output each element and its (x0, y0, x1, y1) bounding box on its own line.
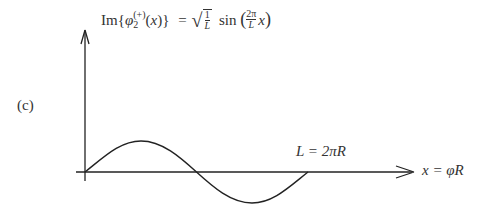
eq-brace-open: { (118, 12, 125, 28)
eq-phi: φ (125, 12, 133, 28)
eq-brace-close: } (162, 12, 169, 28)
eq-x: x (258, 12, 265, 28)
eq-sub: 2 (133, 20, 145, 30)
eq-sqrt-den: L (205, 21, 211, 31)
eq-im: Im (101, 12, 118, 28)
eq-equals: = (178, 12, 186, 28)
eq-sqrt-num: 1 (205, 10, 211, 21)
eq-frac: 2πL (246, 9, 256, 30)
eq-paren-close: ) (265, 9, 271, 29)
equation-label: Im{φ(+)2(x)} =√1L sin (2πLx) (101, 8, 271, 33)
panel-label: (c) (17, 97, 34, 114)
eq-subsup: (+)2 (133, 10, 145, 30)
eq-sin: sin (219, 12, 237, 28)
eq-frac-den: L (246, 20, 256, 30)
eq-sqrt-frac: 1L (203, 9, 213, 31)
period-label: L = 2πR (296, 143, 346, 160)
sqrt-icon: √ (192, 9, 203, 31)
x-axis-label: x = φR (422, 162, 464, 179)
eq-arg: (x) (146, 12, 163, 28)
